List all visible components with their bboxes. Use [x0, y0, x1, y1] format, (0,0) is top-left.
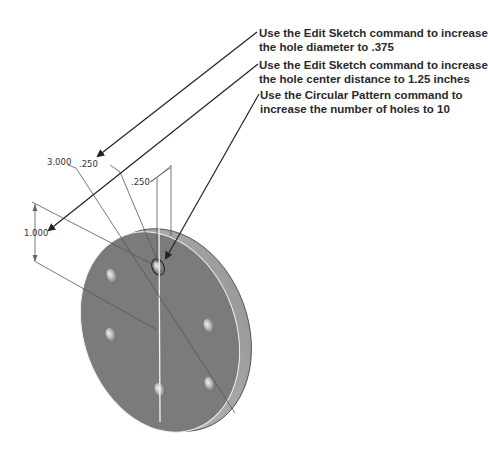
dimension-hole-diameter: .250	[79, 159, 98, 169]
callout-hole-center-distance: Use the Edit Sketch command to increase …	[259, 58, 488, 86]
callout-hole-diameter: Use the Edit Sketch command to increase …	[259, 26, 488, 54]
callout-arrow-3	[166, 94, 259, 258]
callout-1-line1: Use the Edit Sketch command to increase	[259, 26, 488, 40]
callout-arrow-1	[98, 32, 257, 156]
callout-2-line1: Use the Edit Sketch command to increase	[259, 58, 488, 72]
callout-2-line2: the hole center distance to 1.25 inches	[259, 72, 488, 86]
callout-1-line2: the hole diameter to .375	[259, 40, 488, 54]
dimension-center-distance: 1.000	[24, 228, 48, 238]
callout-3-line1: Use the Circular Pattern command to	[260, 88, 463, 102]
dimension-diameter: 3.000	[47, 157, 71, 167]
dimension-thickness: .250	[131, 177, 150, 187]
callout-arrow-2	[49, 64, 258, 230]
callout-arrows	[49, 32, 259, 258]
callout-circular-pattern: Use the Circular Pattern command to incr…	[260, 88, 463, 116]
callout-3-line2: increase the number of holes to 10	[260, 102, 463, 116]
